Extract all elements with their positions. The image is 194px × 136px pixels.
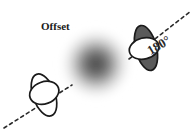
- offset-beam-diagram: Offset 180°: [0, 0, 194, 136]
- diffuse-source-blob: [57, 25, 135, 103]
- offset-label: Offset: [41, 20, 70, 32]
- diagram-canvas: Offset 180°: [0, 0, 194, 136]
